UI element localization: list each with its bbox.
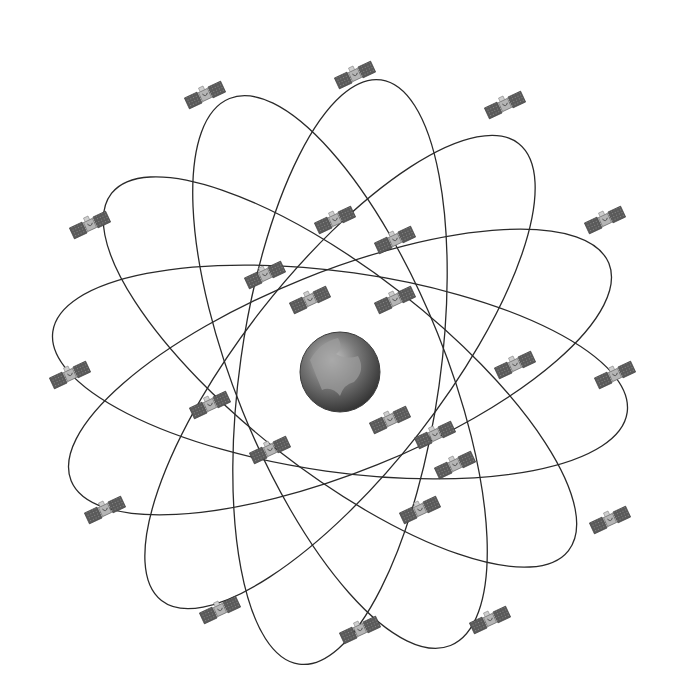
- satellite-icon: [398, 493, 441, 523]
- satellite-icon: [433, 448, 476, 478]
- satellite-icon: [188, 388, 231, 418]
- satellite-icon: [368, 403, 411, 433]
- satellite-icon: [493, 348, 536, 378]
- satellite-icon: [588, 503, 631, 533]
- satellite-icon: [48, 358, 91, 388]
- constellation-diagram: [0, 0, 681, 696]
- satellite-icon: [483, 88, 526, 118]
- satellite-icon: [333, 58, 376, 88]
- satellite-icon: [338, 613, 381, 643]
- satellite-icon: [583, 203, 626, 233]
- satellite-icon: [288, 283, 331, 313]
- satellite-icon: [83, 493, 126, 523]
- satellite-icon: [198, 593, 241, 623]
- satellite-icon: [243, 258, 286, 288]
- satellite-icon: [373, 223, 416, 253]
- satellite-icon: [593, 358, 636, 388]
- satellite-icon: [468, 603, 511, 633]
- earth-globe: [300, 332, 380, 412]
